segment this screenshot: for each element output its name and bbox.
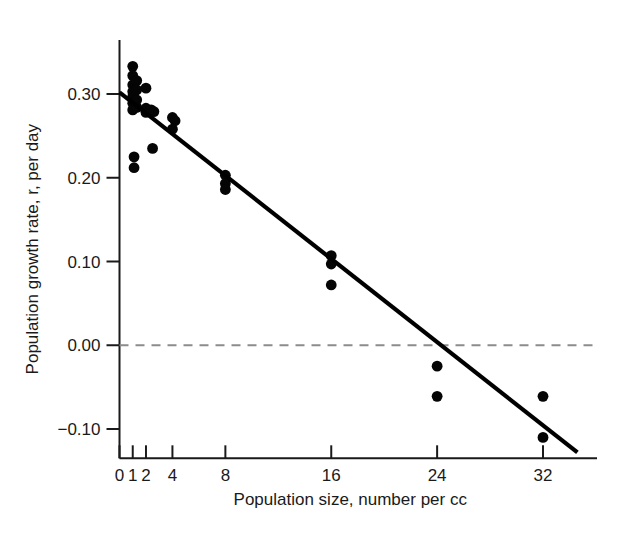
x-tick-label-3: 4 bbox=[168, 466, 177, 485]
scatter-points bbox=[127, 61, 548, 443]
scatter-plot-figure: −0.100.000.100.200.30 01248162432 Popula… bbox=[0, 0, 625, 544]
y-tick-label-4: 0.30 bbox=[67, 85, 100, 104]
plot-canvas: −0.100.000.100.200.30 01248162432 Popula… bbox=[0, 0, 625, 544]
data-point bbox=[147, 143, 158, 154]
data-point bbox=[432, 391, 443, 402]
x-tick-label-7: 32 bbox=[534, 466, 553, 485]
x-tick-label-5: 16 bbox=[322, 466, 341, 485]
y-tick-label-0: −0.10 bbox=[57, 420, 100, 439]
data-point bbox=[129, 151, 140, 162]
axes-group bbox=[107, 40, 598, 458]
tick-label-group: −0.100.000.100.200.30 01248162432 bbox=[57, 85, 552, 485]
y-axis-ticks bbox=[107, 94, 120, 429]
x-axis-ticks bbox=[120, 445, 544, 458]
data-point bbox=[432, 361, 443, 372]
y-tick-label-1: 0.00 bbox=[67, 336, 100, 355]
x-tick-label-4: 8 bbox=[221, 466, 230, 485]
x-axis-title: Population size, number per cc bbox=[234, 490, 468, 509]
data-point bbox=[131, 84, 142, 95]
regression-fit-line bbox=[120, 92, 578, 452]
data-point bbox=[538, 391, 549, 402]
data-point bbox=[141, 83, 152, 94]
data-point bbox=[220, 184, 231, 195]
x-tick-label-0: 0 bbox=[115, 466, 124, 485]
x-tick-label-1: 1 bbox=[128, 466, 137, 485]
data-point bbox=[127, 61, 138, 72]
data-point bbox=[129, 162, 140, 173]
y-tick-label-2: 0.10 bbox=[67, 253, 100, 272]
x-tick-label-6: 24 bbox=[428, 466, 447, 485]
data-series-group bbox=[120, 61, 578, 452]
data-point bbox=[326, 280, 337, 291]
y-axis-title: Population growth rate, r, per day bbox=[23, 123, 42, 374]
y-tick-label-3: 0.20 bbox=[67, 169, 100, 188]
data-point bbox=[131, 75, 142, 86]
data-point bbox=[538, 432, 549, 443]
x-tick-label-2: 2 bbox=[141, 466, 150, 485]
